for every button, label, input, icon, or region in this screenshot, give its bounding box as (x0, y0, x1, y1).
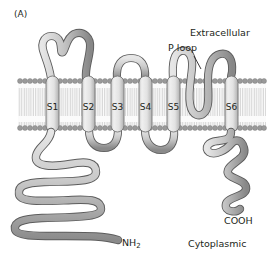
ion-channel-diagram: S1 S2 S3 S4 S5 (0, 0, 280, 269)
cytoplasmic-label: Cytoplasmic (188, 239, 246, 249)
segment-s5: S5 (167, 76, 180, 132)
segment-s5-label: S5 (168, 102, 179, 112)
segment-s4: S4 (139, 76, 152, 132)
segment-s3: S3 (111, 76, 124, 132)
segment-s6: S6 (225, 76, 238, 132)
segment-s2-label: S2 (83, 102, 94, 112)
n-terminus-text: NH (122, 237, 136, 248)
n-terminus-subscript: 2 (136, 242, 140, 250)
segment-s1-label: S1 (47, 102, 58, 112)
figure-panel-a: S1 S2 S3 S4 S5 (0, 0, 280, 269)
c-terminal-chain (207, 132, 246, 211)
n-terminus-label: NH2 (122, 238, 141, 248)
segment-s4-label: S4 (140, 102, 152, 112)
extracellular-label: Extracellular (190, 28, 250, 38)
loop-s2-s3 (89, 130, 118, 148)
segment-s6-label: S6 (226, 102, 238, 112)
segment-s3-label: S3 (112, 102, 123, 112)
segment-s2: S2 (82, 76, 95, 132)
cytoplasmic-loops (89, 130, 174, 150)
panel-label: (A) (14, 10, 27, 19)
segment-s1: S1 (46, 76, 59, 132)
c-terminus-label: COOH (224, 216, 253, 226)
p-loop-label: P loop (168, 43, 197, 53)
